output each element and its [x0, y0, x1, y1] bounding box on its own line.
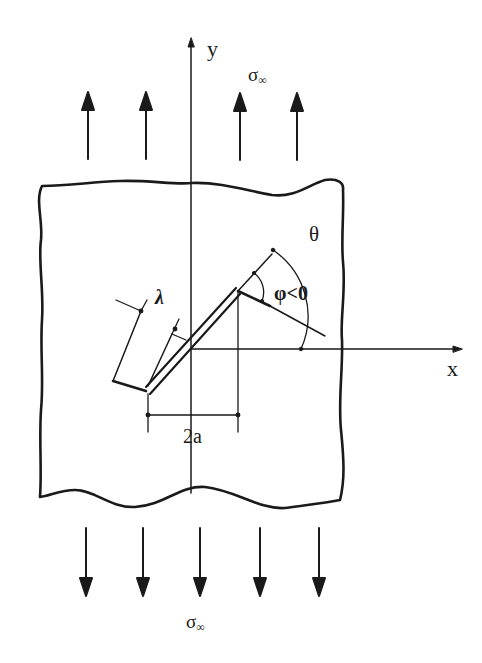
stress-label-top: σ∞	[248, 64, 267, 88]
crack-length-dimension	[146, 292, 240, 432]
phi-label: φ<0	[274, 282, 308, 305]
lambda-label: λ	[155, 286, 164, 309]
y-axis-label: y	[207, 36, 218, 62]
infinity-subscript: ∞	[196, 620, 205, 634]
stress-label-bottom: σ∞	[186, 611, 205, 635]
bottom-stress-arrows	[80, 528, 325, 596]
theta-label: θ	[309, 222, 319, 247]
x-axis-label: x	[447, 356, 458, 382]
sigma-symbol: σ	[186, 611, 196, 632]
x-axis	[191, 346, 462, 352]
crack-diagram	[0, 0, 482, 663]
sigma-symbol: σ	[248, 64, 258, 85]
lambda-dimension	[116, 300, 186, 340]
infinity-subscript: ∞	[258, 73, 267, 87]
top-stress-arrows	[82, 92, 303, 160]
phi-arc	[254, 273, 264, 301]
crack-length-label: 2a	[183, 425, 202, 448]
